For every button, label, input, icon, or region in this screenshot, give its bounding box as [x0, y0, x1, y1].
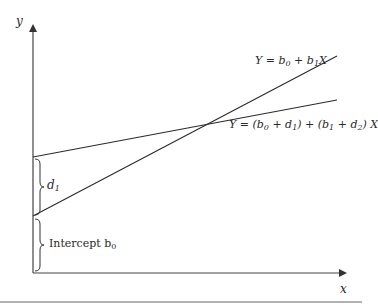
intercept-label: Intercept b0	[49, 237, 116, 250]
eq-text: + d	[269, 118, 292, 131]
d1-label: d1	[47, 178, 60, 192]
base-regression-line	[33, 56, 337, 216]
eq-text: + b	[291, 54, 314, 67]
x-axis-label: x	[340, 282, 347, 296]
base-line-equation: Y = b0 + b1X	[255, 54, 327, 67]
eq-text: ) + (b	[297, 118, 329, 131]
intercept-text: Intercept b	[49, 237, 111, 250]
eq-text: Y = b	[255, 54, 286, 67]
eq-text: Y = (b	[229, 118, 264, 131]
d1-sub: 1	[55, 184, 60, 193]
eq-text: + d	[334, 118, 357, 131]
d1-text: d	[47, 178, 55, 192]
dummy-line-equation: Y = (b0 + d1) + (b1 + d2) X	[229, 118, 378, 131]
intercept-brace	[35, 219, 44, 271]
intercept-sub: 0	[111, 242, 116, 251]
eq-text: X	[319, 54, 327, 67]
y-axis-label: y	[16, 14, 23, 28]
eq-text: ) X	[363, 118, 378, 131]
d1-brace	[35, 159, 44, 215]
